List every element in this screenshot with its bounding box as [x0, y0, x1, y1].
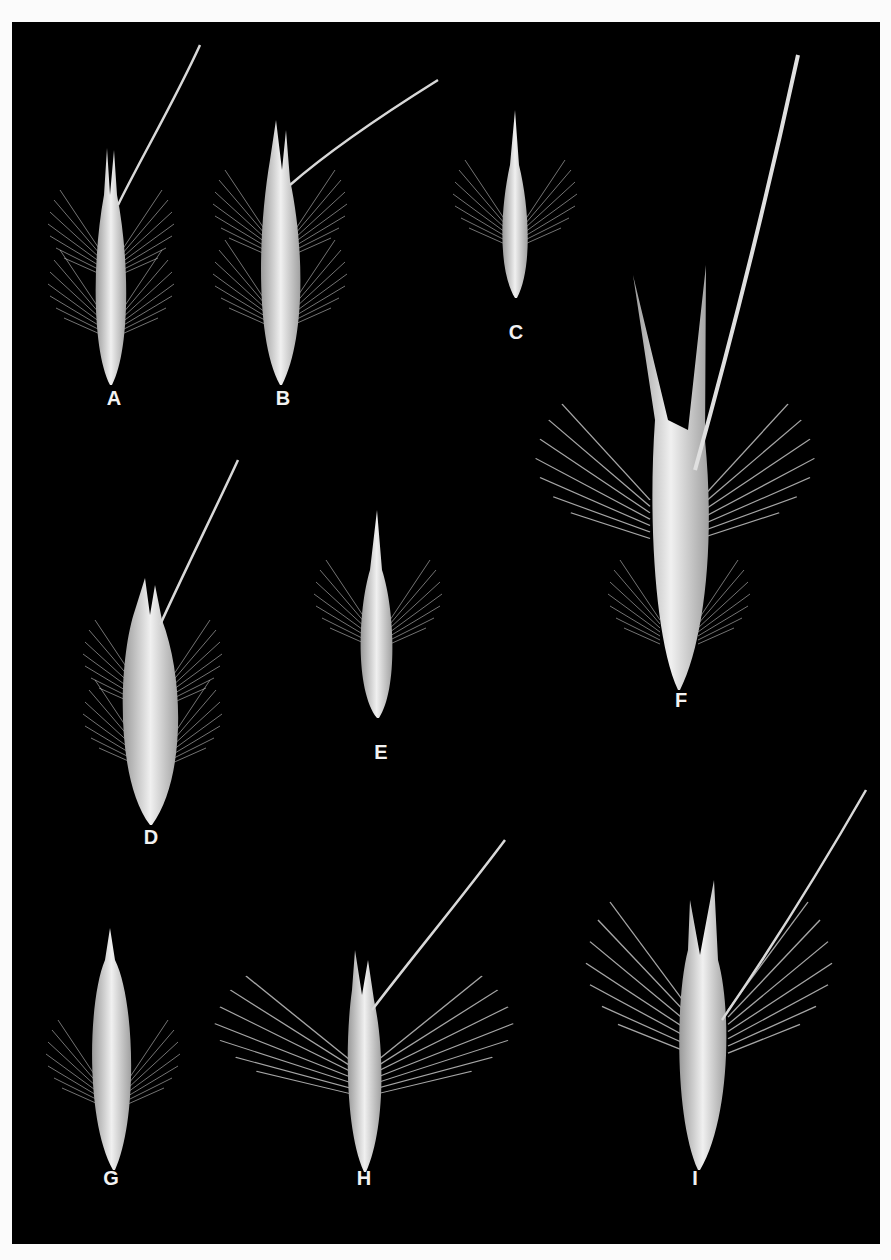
spikelet-c — [453, 110, 577, 298]
specimen-label-f: F — [666, 690, 696, 710]
spikelet-illustrations — [12, 22, 880, 1244]
specimen-label-b: B — [268, 388, 298, 408]
spikelet-e — [314, 510, 442, 718]
spikelet-h — [215, 840, 513, 1172]
specimen-label-h: H — [349, 1168, 379, 1188]
spikelet-b — [213, 80, 438, 385]
spikelet-g — [46, 928, 180, 1170]
specimen-label-i: I — [680, 1168, 710, 1188]
specimen-label-a: A — [99, 388, 129, 408]
specimen-label-g: G — [96, 1168, 126, 1188]
spikelet-i — [586, 790, 866, 1170]
specimen-label-c: C — [501, 322, 531, 342]
spikelet-f — [536, 55, 815, 690]
spikelet-d — [83, 460, 238, 825]
specimen-label-d: D — [136, 827, 166, 847]
spikelet-a — [48, 45, 200, 385]
specimen-label-e: E — [366, 742, 396, 762]
specimen-plate: A B C D E F G H I — [12, 22, 880, 1244]
